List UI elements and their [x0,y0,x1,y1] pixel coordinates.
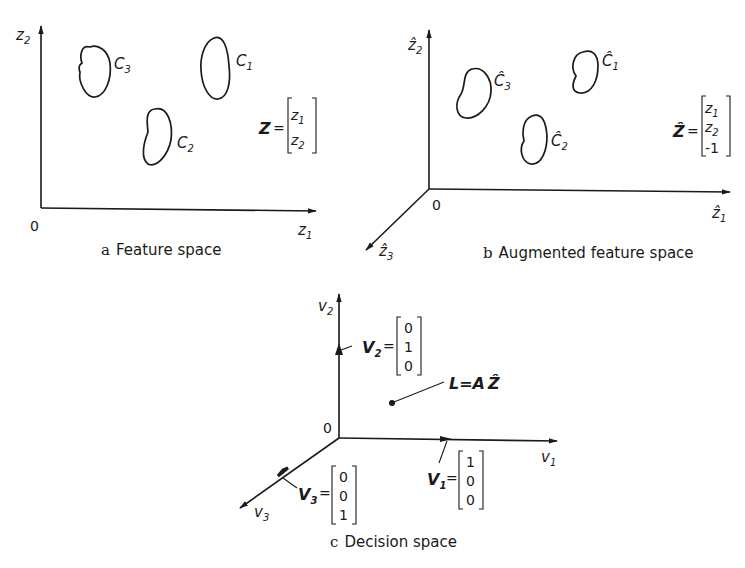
equals-sign: = [273,120,285,136]
equals-sign: = [446,470,458,486]
v1-leader-line [439,441,447,463]
z1hat-axis-label: ẑ1 [711,204,726,224]
class-c1-cluster [201,37,230,99]
bracket-right [352,466,356,524]
class-c3-label: C3 [114,55,131,75]
vector-entry-3: -1 [705,140,719,156]
z-vector-definition: Z = z1 z2 [258,98,316,153]
panel-a-caption: aFeature space [101,241,221,259]
vector-entry-2: 1 [404,339,413,355]
vector-entry-2: 0 [339,488,348,504]
decision-space-figure: z2 0 z1 C3 C1 C2 Z = z1 z2 aFeature spac… [0,0,745,568]
panel-c-decision-space: v2 0 v1 v3 V2 = 0 1 0 L=AẐ V1 = 1 0 0 [240,294,557,551]
bracket-right [417,317,421,375]
vector-zhat-name: Ẑ [672,122,685,141]
bracket-right [479,451,483,509]
v1-unit-arrowhead [440,436,452,442]
panel-a-feature-space: z2 0 z1 C3 C1 C2 Z = z1 z2 aFeature spac… [15,26,316,259]
vector-entry-1: z1 [704,100,719,119]
vector-entry-1: 0 [339,469,348,485]
panel-b-caption: bAugmented feature space [483,244,694,262]
v2-name: V2 [362,338,381,359]
bracket-left [397,317,401,375]
vector-entry-3: 0 [404,358,413,374]
v3-name: V3 [298,485,317,506]
bracket-right [312,98,316,153]
z3hat-axis-label: ẑ3 [378,242,393,262]
v2-leader-line [341,346,352,350]
vector-entry-3: 1 [339,507,348,523]
vector-entry-2: z2 [290,132,305,151]
v1-vector-definition: V1 = 1 0 0 [427,451,483,509]
class-c2-cluster [143,109,171,165]
v2-vector-definition: V2 = 0 1 0 [362,317,421,375]
class-c2hat-label: Ĉ2 [551,131,568,152]
z2hat-axis-label: ẑ2 [407,36,422,56]
bracket-left [459,451,463,509]
origin-label: 0 [30,218,39,234]
class-c1hat-label: Ĉ1 [602,51,619,72]
panel-b-augmented-feature-space: ẑ2 0 ẑ1 ẑ3 Ĉ3 Ĉ1 Ĉ2 Ẑ = z1 z2 -1 bAugmen… [366,30,730,262]
bracket-left [332,466,336,524]
bracket-right [726,96,730,156]
equals-sign: = [687,123,699,139]
v2-unit-arrowhead [335,343,343,355]
point-leader-line [394,382,444,402]
vector-entry-2: z2 [704,119,719,138]
origin-label: 0 [432,197,441,213]
class-c1hat-cluster [573,51,598,93]
class-c3hat-label: Ĉ3 [494,71,511,92]
z1-axis-label: z1 [297,221,312,241]
vector-entry-2: 0 [466,473,475,489]
class-c2hat-cluster [521,115,547,164]
equals-sign: = [383,338,395,354]
v3-vector-definition: V3 = 0 0 1 [298,466,356,524]
class-c2-label: C2 [177,134,194,154]
zhat-vector-definition: Ẑ = z1 z2 -1 [672,96,730,156]
z1hat-axis-arrow [429,189,730,192]
equals-sign: = [319,485,331,501]
panel-c-caption: cDecision space [330,533,457,551]
vector-entry-3: 0 [466,492,475,508]
class-c1-label: C1 [236,52,253,72]
v1-axis-label: v1 [541,448,556,468]
v2-axis-label: v2 [318,297,333,317]
z2-axis-label: z2 [15,26,30,46]
class-c3hat-cluster [457,69,491,119]
vector-entry-1: 1 [466,454,475,470]
decision-point-L [389,400,395,406]
z3hat-axis-arrow [366,189,429,250]
point-label: L=AẐ [449,374,500,393]
vector-entry-1: 0 [404,320,413,336]
class-c3-cluster [79,46,110,97]
vector-z-name: Z [258,119,271,138]
v3-leader-line [283,478,297,488]
v3-axis-label: v3 [254,503,269,523]
v1-name: V1 [427,470,446,491]
origin-label: 0 [323,420,332,436]
vector-entry-1: z1 [290,107,305,126]
z1-axis-arrow [41,208,316,211]
